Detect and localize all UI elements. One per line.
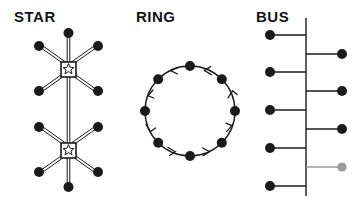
star-node — [34, 167, 44, 177]
bus-topology-graphic — [250, 0, 364, 205]
ring-node — [140, 106, 150, 116]
star-node — [34, 122, 44, 132]
star-node — [93, 86, 103, 96]
ring-node — [217, 138, 227, 148]
star-hub-bottom — [61, 143, 76, 158]
bus-node — [265, 181, 275, 191]
star-node — [93, 167, 103, 177]
bus-node — [265, 30, 275, 40]
panel-bus: BUS — [250, 0, 364, 205]
star-node — [34, 41, 44, 51]
bus-node — [265, 67, 275, 77]
ring-node — [185, 151, 195, 161]
panel-star: STAR — [0, 0, 130, 205]
panel-ring: RING — [130, 0, 250, 205]
star-node — [93, 41, 103, 51]
bus-node — [265, 105, 275, 115]
bus-node — [337, 86, 347, 96]
bus-node — [337, 49, 347, 59]
topology-diagram: STAR — [0, 0, 364, 205]
star-hub-top — [61, 62, 76, 77]
ring-topology-graphic — [130, 0, 250, 205]
ring-node — [217, 74, 227, 84]
ring-node — [153, 74, 163, 84]
star-trunk — [67, 33, 70, 187]
star-node — [64, 182, 74, 192]
ring-node — [153, 138, 163, 148]
star-node — [93, 122, 103, 132]
star-node — [64, 28, 74, 38]
star-node — [34, 86, 44, 96]
ring-nodes — [140, 61, 240, 161]
bus-node — [337, 124, 347, 134]
ring-node — [185, 61, 195, 71]
ring-node — [230, 106, 240, 116]
bus-node — [265, 143, 275, 153]
bus-node-faded — [337, 162, 346, 171]
star-topology-graphic — [0, 0, 130, 205]
